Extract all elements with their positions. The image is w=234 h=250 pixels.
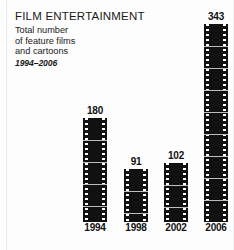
film-frame-divider [83,162,107,163]
filmstrip-bar [164,163,188,222]
film-frame-divider [83,184,107,185]
film-frame-divider [164,185,188,186]
filmstrip-bar [124,169,148,222]
film-frame-divider [124,191,148,192]
x-axis-tick-label: 2006 [205,222,226,234]
film-frame-divider [83,206,107,207]
chart-plot-area: 180199491199810220023432006 [0,0,234,250]
sprocket-holes-left-icon [206,24,209,222]
film-frame-divider [204,68,228,69]
sprocket-holes-left-icon [126,169,129,222]
bar-value-label: 180 [87,105,103,116]
x-axis-tick-label: 2002 [165,222,186,234]
film-entertainment-infographic: FILM ENTERTAINMENT Total number of featu… [0,0,234,250]
sprocket-holes-left-icon [166,163,169,222]
film-frame-divider [204,134,228,135]
bar-value-label: 91 [131,156,142,167]
film-frame-divider [204,200,228,201]
sprocket-holes-right-icon [143,169,146,222]
sprocket-holes-right-icon [183,163,186,222]
film-frame-divider [83,140,107,141]
filmstrip-bar [83,118,107,222]
film-frame-divider [124,213,148,214]
film-frame-divider [204,112,228,113]
film-frame-divider [204,178,228,179]
film-frame-divider [204,156,228,157]
film-frame-divider [204,46,228,47]
bar-value-label: 343 [208,11,224,22]
film-frame-divider [204,90,228,91]
film-frame-divider [164,207,188,208]
x-axis-tick-label: 1998 [125,222,146,234]
sprocket-holes-right-icon [223,24,226,222]
bar-value-label: 102 [168,150,184,161]
x-axis-tick-label: 1994 [84,222,105,234]
filmstrip-bar [204,24,228,222]
